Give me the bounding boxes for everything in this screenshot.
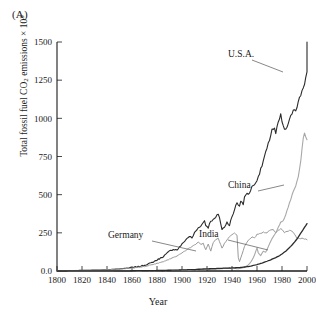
y-tick-label: 750	[39, 152, 53, 162]
x-tick-label: 1920	[198, 275, 217, 285]
series-line-germany	[57, 229, 307, 271]
x-tick-label: 1840	[98, 275, 117, 285]
leader-line-china	[258, 185, 284, 191]
series-annotation-germany: Germany	[108, 230, 144, 240]
x-tick-label: 2000	[298, 275, 316, 285]
x-tick-label: 1800	[48, 275, 67, 285]
y-axis-ticks: 0.0250500750100012501500	[34, 37, 62, 276]
figure-panel-a: (A) Total fossil fuel CO2 emissions × 10…	[0, 0, 316, 316]
series-line-china	[57, 133, 307, 271]
x-axis-ticks: 1800182018401860188019001920194019601980…	[48, 266, 316, 285]
y-tick-label: 1500	[34, 37, 53, 47]
series-annotation-india: India	[199, 229, 219, 239]
x-tick-label: 1980	[273, 275, 292, 285]
y-tick-label: 1250	[34, 75, 53, 85]
series-line-usa	[57, 42, 307, 271]
leader-line-usa	[252, 60, 283, 72]
chart-plot-area: 0.0250500750100012501500 180018201840186…	[0, 0, 316, 316]
x-tick-label: 1940	[223, 275, 242, 285]
x-tick-label: 1900	[173, 275, 192, 285]
chart-axes	[57, 42, 307, 271]
x-tick-label: 1880	[148, 275, 167, 285]
y-tick-label: 250	[39, 228, 53, 238]
y-tick-label: 500	[39, 190, 53, 200]
x-tick-label: 1960	[248, 275, 267, 285]
y-tick-label: 1000	[34, 114, 53, 124]
data-series-group	[57, 42, 307, 271]
x-tick-label: 1820	[73, 275, 92, 285]
series-annotation-china: China	[228, 180, 251, 190]
x-tick-label: 1860	[123, 275, 142, 285]
series-annotation-usa: U.S.A.	[228, 49, 254, 59]
series-annotations: U.S.A.ChinaGermanyIndia	[108, 49, 284, 251]
